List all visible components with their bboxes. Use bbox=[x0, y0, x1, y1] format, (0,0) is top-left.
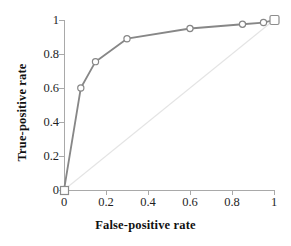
x-tick-label-0: 0 bbox=[61, 196, 67, 209]
x-tick-label-0.6: 0.6 bbox=[182, 196, 198, 209]
y-tick-label-0: 0 bbox=[53, 184, 59, 197]
x-tick-label-0.8: 0.8 bbox=[224, 196, 240, 209]
y-tick-label-0.8: 0.8 bbox=[43, 48, 59, 61]
roc-point-2 bbox=[92, 59, 98, 65]
chance-diagonal-line bbox=[64, 20, 274, 190]
x-tick-label-0.2: 0.2 bbox=[98, 196, 114, 209]
roc-point-5 bbox=[239, 21, 245, 27]
y-tick-label-0.6: 0.6 bbox=[43, 82, 59, 95]
y-axis-title: True-positive rate bbox=[15, 28, 30, 198]
x-tick-label-0.4: 0.4 bbox=[140, 196, 156, 209]
y-tick-label-0.4: 0.4 bbox=[43, 116, 59, 129]
corner-square-marker bbox=[270, 16, 279, 25]
roc-point-3 bbox=[124, 36, 130, 42]
y-tick-label-0.2: 0.2 bbox=[43, 150, 59, 163]
roc-point-4 bbox=[187, 25, 193, 31]
x-axis-title: False-positive rate bbox=[0, 218, 291, 233]
roc-point-6 bbox=[260, 19, 266, 25]
origin-square-marker bbox=[61, 187, 69, 195]
y-tick-label-1: 1 bbox=[53, 14, 59, 27]
roc-point-1 bbox=[78, 85, 84, 91]
roc-curve-figure: 0 0.2 0.4 0.6 0.8 1 0 0.2 0.4 0.6 0.8 1 … bbox=[0, 0, 291, 246]
x-tick-label-1: 1 bbox=[271, 196, 277, 209]
